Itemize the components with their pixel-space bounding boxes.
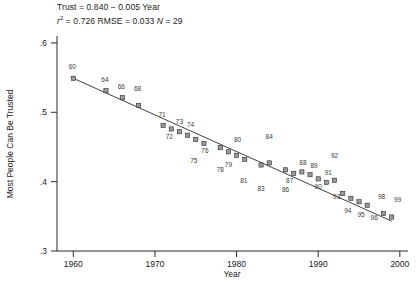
data-point-marker [104,89,108,93]
y-axis-title: Most People Can Be Trusted [5,89,15,198]
data-point-label: 88 [299,159,307,166]
data-point-marker [292,171,296,175]
data-point-marker [349,196,353,200]
data-point-marker [202,141,206,145]
x-axis: 19601970198019902000 [57,251,410,269]
data-point-marker [71,76,75,80]
data-point-marker [226,150,230,154]
y-tick-label: .4 [40,177,47,187]
y-tick-label: .5 [40,107,47,117]
data-point-label: 78 [217,166,225,173]
x-tick-group: 19601970198019902000 [64,251,410,269]
data-point-marker [381,211,385,215]
data-point-marker [243,157,247,161]
data-point-label: 93 [333,193,341,200]
data-point-marker [283,168,287,172]
data-point-label: 90 [315,183,323,190]
data-point-label: 95 [357,211,365,218]
data-point-marker [186,133,190,137]
data-point-marker [365,203,369,207]
data-point-marker [300,170,304,174]
data-point-marker [308,173,312,177]
data-point-label: 96 [371,214,379,221]
data-point-label: 79 [225,161,233,168]
data-point-label: 94 [344,207,352,214]
data-point-marker [169,127,173,131]
data-point-label: 73 [176,118,184,125]
data-points-group [71,76,394,219]
data-point-label: 68 [134,85,142,92]
data-point-label: 91 [325,169,333,176]
data-point-marker [161,123,165,127]
x-tick-label: 1960 [64,259,83,269]
x-axis-title: Year [223,269,240,279]
data-point-label: 98 [378,193,386,200]
data-point-label: 71 [158,111,166,118]
data-point-label: 84 [266,133,274,140]
data-point-marker [390,215,394,219]
y-tick-group: .6.5.4.3 [40,38,57,256]
data-point-label: 64 [101,76,109,83]
data-point-marker [177,130,181,134]
y-tick-label: .6 [40,38,47,48]
data-point-label: 80 [234,136,242,143]
data-point-label: 75 [190,157,198,164]
x-tick-label: 1970 [145,259,164,269]
data-point-label: 99 [394,196,402,203]
data-point-marker [332,178,336,182]
data-point-label: 76 [201,147,209,154]
data-point-marker [316,177,320,181]
data-point-label: 87 [286,177,294,184]
data-point-marker [341,191,345,195]
data-point-marker [357,200,361,204]
data-point-marker [267,161,271,165]
data-point-marker [120,96,124,100]
x-tick-label: 2000 [390,259,409,269]
data-point-label: 60 [69,63,77,70]
data-point-marker [194,137,198,141]
chart-canvas: .6.5.4.3 19601970198019902000 6064666871… [0,0,416,284]
data-point-label: 83 [257,185,265,192]
y-axis: .6.5.4.3 [40,36,57,256]
data-point-label: 89 [310,162,318,169]
data-point-label: 92 [331,152,339,159]
data-point-label: 72 [166,133,174,140]
data-point-marker [137,103,141,107]
data-point-marker [234,153,238,157]
y-tick-label: .3 [40,246,47,256]
x-tick-label: 1980 [227,259,246,269]
data-point-label: 86 [282,186,290,193]
x-tick-label: 1990 [309,259,328,269]
data-point-marker [324,180,328,184]
chart-figure: Trust = 0.840 − 0.005 Year r2 = 0.726 RM… [0,0,416,284]
data-point-label: 66 [118,83,126,90]
data-point-marker [218,146,222,150]
data-point-label: 81 [240,177,248,184]
data-point-marker [259,163,263,167]
data-point-label: 74 [187,121,195,128]
